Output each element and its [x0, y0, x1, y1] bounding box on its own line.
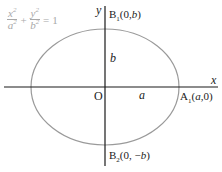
y-axis-label: y	[96, 4, 101, 16]
plus-sign: +	[20, 14, 26, 26]
equals-sign: =	[43, 14, 49, 26]
fraction-x: x2 a2	[7, 8, 17, 31]
ellipse-diagram: x2 a2 + y2 b2 = 1 y x O b a B1(0,b) A1(a…	[0, 0, 222, 172]
power: 2	[36, 6, 40, 14]
fraction-y: y2 b2	[30, 8, 40, 31]
vertex-a1-label: A1(a,0)	[180, 91, 213, 102]
equation-rhs: 1	[52, 14, 58, 26]
power: 2	[36, 18, 40, 26]
vertex-b2-label: B2(0, −b)	[109, 150, 150, 161]
x-axis-label: x	[211, 74, 216, 86]
power: 2	[13, 6, 17, 14]
power: 2	[13, 18, 17, 26]
semi-minor-label: b	[110, 52, 116, 64]
vertex-b1-label: B1(0,b)	[109, 9, 141, 20]
semi-major-label: a	[139, 89, 145, 101]
origin-label: O	[94, 90, 103, 102]
ellipse-equation: x2 a2 + y2 b2 = 1	[7, 8, 58, 31]
